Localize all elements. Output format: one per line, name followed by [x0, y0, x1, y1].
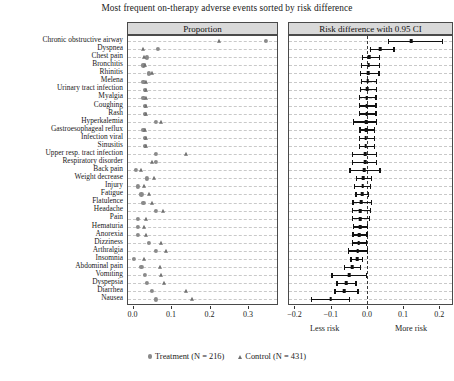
gridline	[289, 194, 452, 195]
ci-line	[388, 41, 443, 42]
proportion-point-control	[147, 192, 151, 196]
gridline	[128, 227, 277, 228]
gridline	[128, 219, 277, 220]
axis-tick-label: −0.2	[287, 310, 302, 319]
point-estimate	[410, 39, 413, 43]
less-risk-note: Less risk	[310, 324, 339, 333]
axis-tick-label: 0.1	[398, 310, 408, 319]
proportion-point-treatment	[154, 120, 158, 124]
confidence-interval	[344, 265, 361, 270]
proportion-point-control	[152, 176, 156, 180]
ci-cap-left	[352, 240, 353, 245]
panel-header-proportion: Proportion	[127, 22, 278, 35]
ci-cap-right	[374, 144, 375, 149]
ci-cap-left	[348, 248, 349, 253]
ci-cap-left	[359, 144, 360, 149]
triangle-marker-icon	[238, 355, 242, 359]
confidence-interval	[353, 119, 377, 124]
panel-header-risk-difference: Risk difference with 0.95 CI	[288, 22, 453, 35]
axis-tick-label: 0.2	[434, 310, 444, 319]
proportion-point-control	[150, 200, 154, 204]
confidence-interval	[388, 39, 443, 44]
ci-cap-left	[349, 168, 350, 173]
ci-line	[362, 57, 380, 58]
ci-cap-right	[366, 240, 367, 245]
axis-tick-label: −0.1	[323, 310, 338, 319]
ci-cap-left	[388, 39, 389, 44]
axis-tick-label: 0.1	[166, 310, 176, 319]
more-risk-note: More risk	[395, 324, 427, 333]
proportion-point-treatment	[136, 233, 140, 237]
ci-cap-right	[366, 273, 367, 278]
proportion-point-treatment	[143, 273, 147, 277]
gridline	[289, 219, 452, 220]
point-estimate	[379, 47, 382, 51]
ci-cap-right	[379, 63, 380, 68]
gridline	[128, 267, 277, 268]
gridline	[128, 90, 277, 91]
point-estimate	[343, 289, 346, 293]
gridline	[289, 227, 452, 228]
axis-tick	[331, 306, 332, 309]
proportion-point-control	[144, 112, 148, 116]
circle-marker-icon	[148, 354, 152, 358]
point-estimate	[345, 281, 348, 285]
ci-cap-left	[360, 87, 361, 92]
ci-cap-right	[375, 111, 376, 116]
axis-tick	[171, 306, 172, 309]
gridline	[128, 138, 277, 139]
gridline	[128, 259, 277, 260]
legend: Treatment (N = 216) Control (N = 431)	[0, 352, 454, 361]
point-estimate	[356, 257, 359, 261]
ci-cap-right	[367, 224, 368, 229]
ci-cap-left	[336, 281, 337, 286]
ci-cap-right	[379, 55, 380, 60]
point-estimate	[364, 136, 367, 140]
gridline	[289, 235, 452, 236]
proportion-point-control	[142, 184, 146, 188]
gridline	[128, 130, 277, 131]
point-estimate	[329, 297, 332, 301]
forest-plot-figure: Most frequent on-therapy adverse events …	[0, 0, 454, 381]
proportion-point-treatment	[132, 257, 136, 261]
confidence-interval	[334, 289, 358, 294]
proportion-point-treatment	[154, 209, 158, 213]
point-estimate	[358, 241, 361, 245]
point-estimate	[366, 79, 369, 83]
ci-line	[360, 73, 380, 74]
confidence-interval	[349, 168, 380, 173]
ci-cap-left	[370, 47, 371, 52]
ci-cap-left	[359, 111, 360, 116]
point-estimate	[363, 168, 366, 172]
proportion-point-treatment	[154, 297, 158, 301]
confidence-interval	[352, 200, 372, 205]
confidence-interval	[359, 111, 377, 116]
point-estimate	[365, 120, 368, 124]
ci-cap-left	[352, 232, 353, 237]
gridline	[128, 154, 277, 155]
gridline	[128, 41, 277, 42]
gridline	[128, 82, 277, 83]
ci-cap-right	[368, 192, 369, 197]
point-estimate	[367, 71, 370, 75]
proportion-point-control	[144, 136, 148, 140]
proportion-point-treatment	[156, 47, 160, 51]
proportion-x-axis: 0.00.10.20.3	[127, 306, 278, 324]
gridline	[289, 275, 452, 276]
proportion-point-control	[158, 265, 162, 269]
ci-cap-right	[375, 95, 376, 100]
point-estimate	[364, 144, 367, 148]
proportion-point-treatment	[139, 265, 143, 269]
confidence-interval	[352, 216, 370, 221]
ci-cap-right	[376, 79, 377, 84]
confidence-interval	[352, 152, 377, 157]
proportion-point-treatment	[147, 241, 151, 245]
proportion-point-treatment	[154, 152, 158, 156]
gridline	[128, 283, 277, 284]
risk-difference-plot-area	[288, 35, 453, 305]
confidence-interval	[356, 176, 372, 181]
gridline	[289, 259, 452, 260]
ci-cap-right	[362, 257, 363, 262]
ci-cap-left	[352, 216, 353, 221]
confidence-interval	[331, 273, 366, 278]
